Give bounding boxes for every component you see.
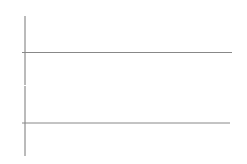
waveform-diagram [0,0,247,164]
bottom-plot [0,0,230,156]
top-plot [0,0,232,85]
